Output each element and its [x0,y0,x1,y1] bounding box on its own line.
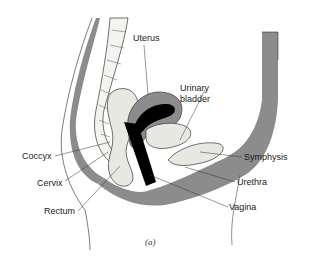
label-symphysis: Symphysis [244,152,288,162]
label-coccyx: Coccyx [22,151,52,161]
label-uterus: Uterus [133,33,160,43]
label-cervix: Cervix [37,178,63,188]
label-urinary-bladder-line1: Urinary [180,83,209,93]
urinary-bladder [146,123,191,148]
label-vagina: Vagina [229,202,256,212]
label-rectum: Rectum [44,206,75,216]
figure-caption: (a) [145,237,156,247]
label-urethra: Urethra [237,177,267,187]
label-urinary-bladder-line2: bladder [180,94,210,104]
